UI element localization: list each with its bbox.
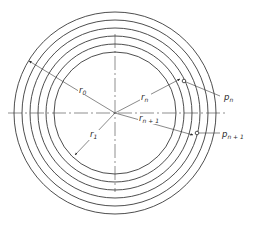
r0-dimension-line [29,61,115,113]
concentric-circles-diagram: r0 r1 rn rn + 1 pn pn + 1 [0,0,254,225]
pn-label: pn [223,92,233,103]
pn1-label: pn + 1 [221,129,244,140]
pn1-point-marker [195,131,199,135]
pn-point-marker [182,79,186,83]
